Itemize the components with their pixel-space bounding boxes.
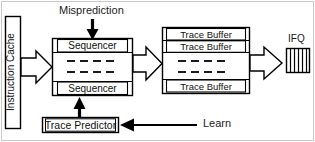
arrow-sequencer-to-tracebuffer bbox=[133, 47, 162, 80]
arrow-misprediction bbox=[87, 19, 99, 40]
trace-buffer-label-2: Trace Buffer bbox=[166, 40, 246, 53]
trace-buffer-label-3: Trace Buffer bbox=[166, 80, 246, 93]
arrow-learn-to-predictor bbox=[120, 119, 197, 132]
sequencer-label-top: Sequencer bbox=[57, 39, 128, 52]
arrow-tracebuffer-to-ifq bbox=[250, 47, 282, 79]
trace-predictor-label: Trace Predictor bbox=[45, 118, 116, 132]
misprediction-label: Misprediction bbox=[59, 5, 124, 16]
trace-buffer-label-1: Trace Buffer bbox=[166, 28, 246, 40]
sequencer-label-bottom: Sequencer bbox=[57, 82, 128, 95]
learn-label: Learn bbox=[203, 118, 231, 129]
diagram-canvas: Misprediction Learn IFQ Instruction Cach… bbox=[0, 0, 315, 142]
arrow-icache-to-sequencer bbox=[21, 51, 52, 83]
ifq-label: IFQ bbox=[288, 34, 305, 44]
arrow-predictor-to-sequencer bbox=[74, 97, 86, 118]
instruction-cache-label: Instruction Cache bbox=[2, 16, 18, 128]
